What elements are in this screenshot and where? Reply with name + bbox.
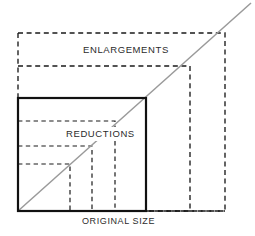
- diagram-canvas: ENLARGEMENTS REDUCTIONS ORIGINAL SIZE: [0, 0, 255, 236]
- reductions-label: REDUCTIONS: [66, 128, 135, 139]
- enlargements-label: ENLARGEMENTS: [83, 44, 169, 55]
- enlargement-box-large: [18, 33, 225, 211]
- proportion-diagonal: [18, 3, 251, 211]
- original-size-label: ORIGINAL SIZE: [82, 216, 155, 226]
- scaling-diagram: ENLARGEMENTS REDUCTIONS ORIGINAL SIZE: [0, 0, 255, 236]
